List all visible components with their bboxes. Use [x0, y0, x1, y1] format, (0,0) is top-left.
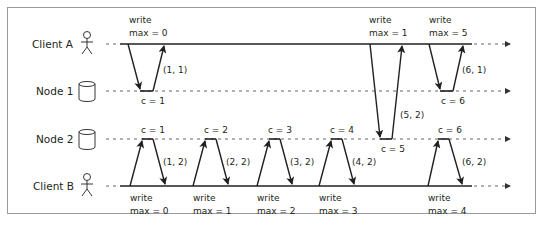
response-arrow [392, 46, 402, 139]
request-arrow [128, 44, 140, 89]
max-label: max = 0 [130, 206, 169, 216]
counter-label: c = 1 [141, 125, 165, 135]
participant-label-node-1: Node 1 [36, 85, 73, 97]
max-label: max = 0 [129, 28, 168, 38]
write-label: write [369, 15, 392, 25]
response-label: (6, 1) [462, 65, 486, 75]
response-label: (6, 2) [462, 157, 486, 167]
write-label: write [319, 193, 342, 203]
write-label: write [129, 15, 152, 25]
max-label: max = 3 [319, 206, 358, 216]
max-label: max = 2 [257, 206, 296, 216]
person-icon [81, 32, 93, 55]
participant-label-client-b: Client B [33, 180, 74, 192]
database-icon [79, 82, 95, 102]
request-arrow [370, 44, 380, 137]
request-arrow [257, 141, 269, 186]
counter-label: c = 2 [204, 125, 228, 135]
request-arrow [429, 44, 440, 89]
participant-label-client-a: Client A [32, 38, 74, 50]
max-label: max = 5 [429, 28, 468, 38]
counter-label: c = 3 [268, 125, 292, 135]
write-label: write [130, 193, 153, 203]
request-arrow [193, 141, 205, 186]
write-label: write [257, 193, 280, 203]
counter-label: c = 4 [330, 125, 354, 135]
response-label: (2, 2) [226, 157, 250, 167]
response-label: (3, 2) [290, 157, 314, 167]
write-label: write [193, 193, 216, 203]
sequence-diagram: Client A Node 1 Node 2 Client B [0, 0, 543, 231]
request-arrow [319, 141, 331, 186]
request-arrow [428, 141, 438, 186]
participant-label-node-2: Node 2 [36, 133, 73, 145]
counter-label: c = 6 [438, 125, 462, 135]
counter-label: c = 6 [441, 96, 465, 106]
request-arrow [130, 141, 142, 186]
max-label: max = 1 [369, 28, 408, 38]
response-arrow [449, 139, 462, 184]
write-label: write [429, 15, 452, 25]
write-label: write [428, 193, 451, 203]
database-icon [79, 130, 95, 150]
person-icon [81, 174, 93, 197]
response-label: (1, 1) [163, 65, 187, 75]
response-label: (5, 2) [400, 110, 424, 120]
max-label: max = 4 [428, 206, 467, 216]
response-label: (1, 2) [163, 157, 187, 167]
max-label: max = 1 [193, 206, 232, 216]
counter-label: c = 5 [381, 144, 405, 154]
counter-label: c = 1 [141, 96, 165, 106]
response-label: (4, 2) [352, 157, 376, 167]
